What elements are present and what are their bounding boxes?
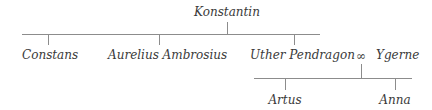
connector-aurelius xyxy=(159,34,160,45)
connector-generation-3-bar xyxy=(254,78,412,79)
family-tree-diagram: Konstantin Constans Aurelius Ambrosius U… xyxy=(0,0,432,110)
person-artus: Artus xyxy=(268,93,301,107)
connector-artus xyxy=(285,78,286,90)
person-aurelius-ambrosius: Aurelius Ambrosius xyxy=(108,48,227,62)
connector-generation-2-bar xyxy=(22,34,320,35)
person-anna: Anna xyxy=(379,93,410,107)
connector-uther xyxy=(294,34,295,45)
connector-constans xyxy=(48,34,49,45)
connector-root-down xyxy=(227,22,228,34)
marriage-symbol-icon: ∞ xyxy=(356,49,366,63)
connector-marriage-down xyxy=(361,64,362,78)
person-konstantin: Konstantin xyxy=(194,5,260,19)
person-ygerne: Ygerne xyxy=(376,48,419,62)
connector-anna xyxy=(395,78,396,90)
person-uther-pendragon: Uther Pendragon xyxy=(250,48,355,62)
person-constans: Constans xyxy=(22,48,78,62)
